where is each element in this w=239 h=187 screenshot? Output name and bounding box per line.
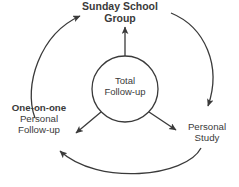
arc-personal-study-to-one-on-one xyxy=(60,148,201,174)
sunday-school-group-line2: Group xyxy=(70,13,170,25)
node-label-personal-study: Personal Study xyxy=(176,122,238,144)
one-on-one-line3: Follow-up xyxy=(0,125,78,136)
follow-up-cycle-diagram: Sunday School Group Total Follow-up One-… xyxy=(0,0,239,187)
node-label-one-on-one-personal-follow-up: One-on-one Personal Follow-up xyxy=(0,103,78,136)
node-label-total-follow-up: Total Follow-up xyxy=(90,76,160,97)
arrow-center-to-one-on-one xyxy=(76,112,101,133)
personal-study-line2: Study xyxy=(176,133,238,144)
total-follow-up-line2: Follow-up xyxy=(90,87,160,98)
arrow-center-to-personal-study xyxy=(149,112,176,130)
sunday-school-group-line1: Sunday School xyxy=(70,1,170,13)
node-label-sunday-school-group: Sunday School Group xyxy=(70,1,170,25)
arc-sunday-school-group-to-personal-study xyxy=(171,13,213,106)
